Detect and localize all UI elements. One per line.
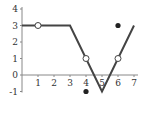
- filled-point: [115, 23, 120, 28]
- x-tick-label: 6: [115, 78, 121, 88]
- y-tick-label: 3: [12, 21, 18, 31]
- x-tick-label: 7: [131, 78, 137, 88]
- x-tick-label: 2: [51, 78, 57, 88]
- y-tick-label: 4: [12, 4, 18, 14]
- y-tick-label: 2: [12, 37, 18, 47]
- piecewise-function-chart: -1012341234567: [0, 0, 159, 116]
- data-points: [35, 23, 121, 95]
- x-tick-label: 3: [67, 78, 73, 88]
- x-tick-label: 4: [83, 78, 89, 88]
- filled-point: [83, 89, 88, 94]
- y-tick-label: 1: [12, 54, 18, 64]
- y-tick-label: 0: [12, 70, 18, 80]
- open-point: [83, 56, 89, 62]
- open-point: [115, 56, 121, 62]
- tick-labels: -1012341234567: [9, 4, 137, 97]
- open-point: [35, 23, 41, 29]
- y-tick-label: -1: [9, 87, 18, 97]
- x-tick-label: 1: [35, 78, 41, 88]
